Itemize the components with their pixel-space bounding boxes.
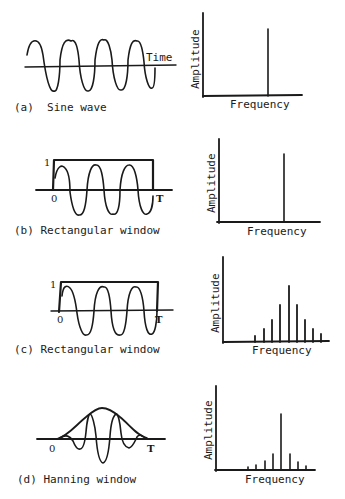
panel-a-spectrum bbox=[203, 13, 302, 97]
tick-T: T bbox=[147, 443, 155, 454]
frequency-label: Frequency bbox=[247, 225, 307, 238]
panel-b-spectrum bbox=[217, 139, 320, 223]
panel-d-spectrum bbox=[215, 386, 315, 471]
caption-a: (a) Sine wave bbox=[14, 101, 107, 114]
tick-one: 1 bbox=[44, 157, 50, 168]
time-label: Time bbox=[146, 51, 173, 64]
panel-c-time bbox=[51, 282, 173, 335]
tick-T: T bbox=[156, 193, 164, 204]
tick-zero: 0 bbox=[57, 314, 63, 325]
amplitude-label: Amplitude bbox=[205, 153, 218, 213]
frequency-axis bbox=[203, 95, 302, 96]
time-axis bbox=[51, 310, 173, 311]
windowing-figure: Time (a) Sine wave Amplitude Frequency 1… bbox=[0, 0, 345, 499]
spectral-lines bbox=[255, 286, 321, 342]
amplitude-label: Amplitude bbox=[202, 400, 215, 460]
tick-zero: 0 bbox=[49, 443, 55, 454]
frequency-label: Frequency bbox=[252, 344, 312, 357]
time-axis bbox=[25, 65, 176, 67]
tick-zero: 0 bbox=[51, 193, 57, 204]
amplitude-label: Amplitude bbox=[189, 29, 202, 89]
windowed-sine bbox=[55, 165, 153, 215]
panel-d-time bbox=[37, 408, 165, 463]
hanning-window bbox=[57, 408, 147, 439]
panel-b-time bbox=[36, 160, 172, 215]
tick-one: 1 bbox=[50, 279, 56, 290]
frequency-label: Frequency bbox=[230, 98, 290, 111]
panel-a-time bbox=[25, 40, 176, 92]
frequency-label: Frequency bbox=[245, 473, 305, 486]
caption-d: (d) Hanning window bbox=[17, 473, 137, 486]
amplitude-label: Amplitude bbox=[209, 273, 222, 333]
tick-T: T bbox=[155, 314, 163, 325]
labels: Time (a) Sine wave Amplitude Frequency 1… bbox=[14, 29, 312, 486]
spectral-lines bbox=[248, 414, 306, 470]
caption-b: (b) Rectangular window bbox=[14, 224, 160, 237]
panel-c-spectrum bbox=[223, 257, 329, 343]
caption-c: (c) Rectangular window bbox=[14, 343, 160, 356]
